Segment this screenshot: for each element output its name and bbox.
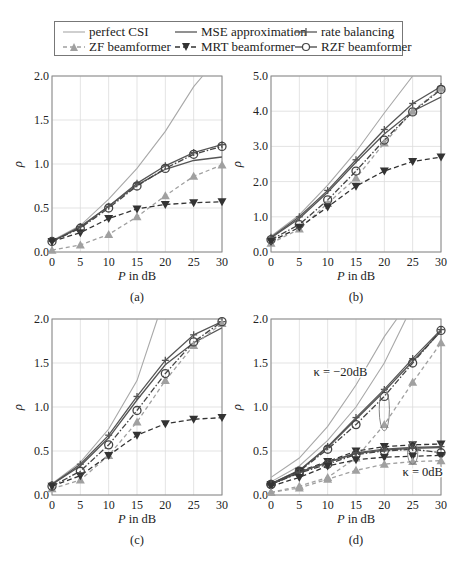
chart-panel-d: 0510152025300.00.51.01.52.0P in dBρ(d)κ …	[229, 312, 447, 547]
x-tick-label: 30	[435, 498, 447, 512]
y-axis-label: ρ	[229, 404, 244, 411]
y-tick-label: 2.0	[253, 312, 268, 326]
x-axis-label: P in dB	[336, 512, 375, 526]
panel-label: (a)	[130, 290, 144, 304]
x-tick-label: 25	[188, 255, 200, 269]
y-tick-label: 2.0	[253, 175, 268, 189]
x-axis-label: P in dB	[336, 269, 375, 283]
x-tick-label: 5	[296, 498, 302, 512]
y-tick-label: 0.0	[34, 245, 49, 259]
panel-label: (d)	[349, 533, 364, 547]
kappa-annotation: κ = 0dB	[402, 465, 442, 479]
panel-label: (c)	[130, 533, 144, 547]
x-tick-label: 10	[322, 255, 334, 269]
y-tick-label: 1.0	[253, 400, 268, 414]
x-tick-label: 10	[103, 255, 115, 269]
panel-label: (b)	[349, 290, 364, 304]
x-tick-label: 5	[77, 498, 83, 512]
x-tick-label: 15	[131, 498, 143, 512]
x-axis-label: P in dB	[117, 269, 156, 283]
x-tick-label: 0	[49, 255, 55, 269]
y-tick-label: 2.0	[34, 312, 49, 326]
chart-panel-b: 0510152025300.01.02.03.04.05.0P in dBρ(b…	[229, 69, 447, 304]
y-tick-label: 1.0	[253, 210, 268, 224]
y-tick-label: 0.5	[34, 201, 49, 215]
x-tick-label: 30	[435, 255, 447, 269]
x-tick-label: 0	[268, 255, 274, 269]
y-axis-label: ρ	[10, 161, 25, 168]
chart-panel-a: 0510152025300.00.51.01.52.0P in dBρ(a)	[10, 69, 228, 304]
chart-panel-c: 0510152025300.00.51.01.52.0P in dBρ(c)	[10, 312, 228, 547]
x-tick-label: 25	[188, 498, 200, 512]
x-tick-label: 5	[77, 255, 83, 269]
x-tick-label: 10	[103, 498, 115, 512]
y-tick-label: 4.0	[253, 104, 268, 118]
y-tick-label: 2.0	[34, 69, 49, 83]
x-tick-label: 10	[322, 498, 334, 512]
x-tick-label: 15	[350, 498, 362, 512]
kappa-annotation: κ = −20dB	[314, 365, 368, 379]
y-tick-label: 1.0	[34, 400, 49, 414]
y-tick-label: 0.0	[253, 488, 268, 502]
x-tick-label: 20	[159, 255, 171, 269]
x-tick-label: 20	[378, 498, 390, 512]
series-line-perfect	[271, 76, 413, 236]
x-tick-label: 30	[216, 255, 228, 269]
y-tick-label: 1.5	[34, 356, 49, 370]
y-tick-label: 1.5	[34, 113, 49, 127]
y-tick-label: 0.5	[253, 444, 268, 458]
x-tick-label: 5	[296, 255, 302, 269]
x-tick-label: 25	[407, 255, 419, 269]
x-axis-label: P in dB	[117, 512, 156, 526]
x-tick-label: 20	[159, 498, 171, 512]
figure: perfect CSI MSE approximation rate balan…	[0, 0, 461, 563]
x-tick-label: 0	[268, 498, 274, 512]
x-tick-label: 15	[350, 255, 362, 269]
y-tick-label: 0.0	[253, 245, 268, 259]
x-tick-label: 20	[378, 255, 390, 269]
y-tick-label: 5.0	[253, 69, 268, 83]
x-tick-label: 0	[49, 498, 55, 512]
chart-panels: 0510152025300.00.51.01.52.0P in dBρ(a)05…	[0, 0, 461, 563]
y-tick-label: 0.0	[34, 488, 49, 502]
x-tick-label: 25	[407, 498, 419, 512]
y-tick-label: 0.5	[34, 444, 49, 458]
y-axis-label: ρ	[229, 161, 244, 168]
y-tick-label: 1.5	[253, 356, 268, 370]
x-tick-label: 15	[131, 255, 143, 269]
x-tick-label: 30	[216, 498, 228, 512]
y-axis-label: ρ	[10, 404, 25, 411]
y-tick-label: 3.0	[253, 139, 268, 153]
y-tick-label: 1.0	[34, 157, 49, 171]
